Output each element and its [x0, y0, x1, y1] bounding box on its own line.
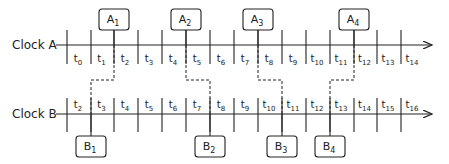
- time-label: t9: [289, 53, 297, 67]
- time-label: t10: [311, 53, 324, 67]
- event-box-a4: A4: [339, 9, 369, 45]
- time-label: t5: [145, 99, 153, 113]
- time-label: t12: [358, 53, 371, 67]
- time-label: t7: [193, 99, 201, 113]
- time-label: t8: [265, 53, 273, 67]
- event-links: [91, 45, 354, 114]
- time-label: t1: [97, 53, 105, 67]
- clock-b-timeline: Clock Bt2t3t4t5t6t7t8t9t10t11t12t13t14t1…: [12, 98, 432, 132]
- time-label: t11: [335, 53, 348, 67]
- time-label: t8: [217, 99, 225, 113]
- clock-label: Clock A: [12, 38, 57, 52]
- clock-b-events: B1B2B3B4: [76, 114, 345, 157]
- event-box-a3: A3: [243, 9, 273, 45]
- time-label: t4: [121, 99, 130, 113]
- time-label: t0: [74, 53, 82, 67]
- time-label: t2: [121, 53, 129, 67]
- event-box-b3: B3: [267, 114, 297, 157]
- time-label: t4: [169, 53, 178, 67]
- time-label: t6: [169, 99, 178, 113]
- time-label: t11: [287, 99, 300, 113]
- time-label: t14: [406, 53, 419, 67]
- event-box-a1: A1: [99, 9, 129, 45]
- event-box-b2: B2: [195, 114, 225, 157]
- time-label: t13: [382, 53, 395, 67]
- clock-label: Clock B: [12, 107, 57, 121]
- time-label: t13: [335, 99, 348, 113]
- time-label: t6: [217, 53, 226, 67]
- time-label: t5: [193, 53, 201, 67]
- event-box-b4: B4: [315, 114, 345, 157]
- time-label: t7: [241, 53, 249, 67]
- event-link-dashed: [186, 45, 210, 114]
- event-box-b1: B1: [76, 114, 106, 157]
- time-label: t9: [241, 99, 249, 113]
- time-label: t15: [382, 99, 395, 113]
- time-label: t10: [263, 99, 276, 113]
- event-box-a2: A2: [171, 9, 201, 45]
- time-label: t12: [311, 99, 324, 113]
- event-link-dashed: [91, 45, 114, 114]
- time-label: t3: [97, 99, 105, 113]
- clock-a-timeline: Clock At0t1t2t3t4t5t6t7t8t9t10t11t12t13t…: [12, 30, 432, 67]
- time-label: t16: [406, 99, 419, 113]
- clock-sync-diagram: Clock At0t1t2t3t4t5t6t7t8t9t10t11t12t13t…: [0, 0, 449, 164]
- time-label: t3: [145, 53, 153, 67]
- time-label: t14: [358, 99, 371, 113]
- time-label: t2: [74, 99, 82, 113]
